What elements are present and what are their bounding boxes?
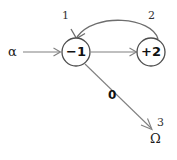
edge-input-to-node-1 bbox=[23, 48, 61, 56]
edge-node-1-to-node-2 bbox=[91, 48, 137, 56]
input-alpha-label: α bbox=[8, 45, 17, 58]
edge-node-1-to-node-3 bbox=[85, 64, 152, 130]
node-omega-index-label: 3 bbox=[157, 117, 164, 128]
diagram-canvas: −1 +2 1 2 3 α Ω 0 bbox=[0, 0, 177, 160]
edge-terminal-line bbox=[85, 64, 151, 128]
edge-node-2-to-node-1 bbox=[71, 20, 158, 39]
node-plus-two-index-label: 2 bbox=[148, 10, 155, 21]
node-plus-two-label: +2 bbox=[133, 45, 169, 58]
edge-terminal-weight-label: 0 bbox=[108, 89, 116, 101]
node-omega-label: Ω bbox=[150, 132, 161, 145]
edge-feedback-arc bbox=[77, 20, 158, 39]
node-minus-one-label: −1 bbox=[58, 45, 94, 58]
node-minus-one-index-label: 1 bbox=[62, 10, 69, 21]
